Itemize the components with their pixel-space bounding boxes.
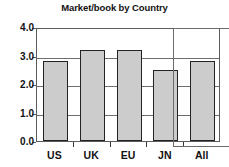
chart-title: Market/book by Country [0, 2, 229, 14]
x-tick-label-jn: JN [145, 149, 185, 161]
chart-screenshot: Market/book by Country 0.01.02.03.04.0 U… [0, 0, 229, 167]
bar-uk[interactable] [80, 50, 105, 141]
x-tick-mark [73, 142, 74, 147]
bar-us[interactable] [43, 61, 68, 141]
x-tick-label-us: US [34, 149, 74, 161]
x-tick-mark [146, 142, 147, 147]
x-tick-mark [183, 142, 184, 147]
y-tick-label: 3.0 [2, 52, 34, 62]
y-axis: 0.01.02.03.04.0 [0, 0, 34, 167]
x-tick-label-uk: UK [71, 149, 111, 161]
plot-area [36, 28, 220, 142]
x-tick-mark [110, 142, 111, 147]
bar-jn[interactable] [153, 70, 178, 141]
y-tick-label: 1.0 [2, 109, 34, 119]
y-tick-label: 4.0 [2, 23, 34, 33]
y-tick-label: 0.0 [2, 137, 34, 147]
bar-all[interactable] [190, 61, 215, 141]
x-tick-label-eu: EU [108, 149, 148, 161]
y-tick-label: 2.0 [2, 80, 34, 90]
bar-eu[interactable] [117, 50, 142, 141]
x-tick-label-all: All [182, 149, 222, 161]
